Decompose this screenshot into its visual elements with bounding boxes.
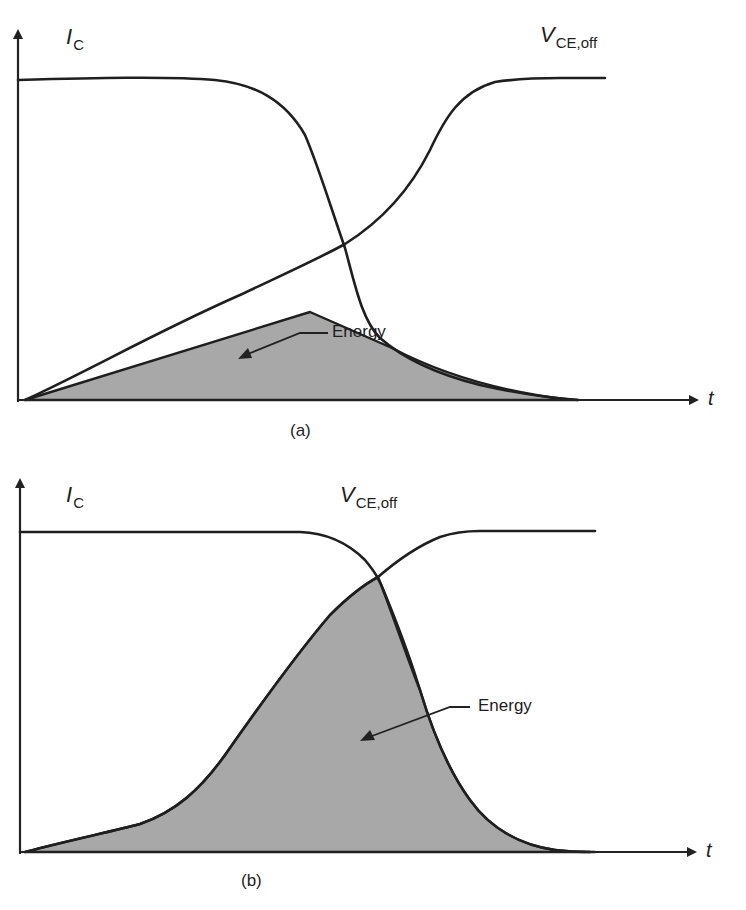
panel-a bbox=[17, 34, 694, 402]
panel-label-a: (a) bbox=[290, 422, 311, 439]
panel-label-b: (b) bbox=[241, 872, 262, 889]
ic-symbol-a: I bbox=[66, 24, 72, 49]
ic-label-a: IC bbox=[66, 26, 84, 48]
t-axis-label-a: t bbox=[708, 388, 714, 408]
vce-subscript-b: CE,off bbox=[356, 494, 397, 511]
ic-subscript-a: C bbox=[73, 36, 84, 53]
vce-symbol-b: V bbox=[340, 482, 355, 507]
energy-label-b: Energy bbox=[478, 697, 532, 714]
vce-subscript-a: CE,off bbox=[556, 34, 597, 51]
vce-symbol-a: V bbox=[540, 22, 555, 47]
ic-symbol-b: I bbox=[66, 482, 72, 507]
ic-subscript-b: C bbox=[73, 494, 84, 511]
ic-label-b: IC bbox=[66, 484, 84, 506]
turn-off-waveform-figure bbox=[0, 0, 746, 910]
panel-b bbox=[19, 483, 692, 854]
vce-label-b: VCE,off bbox=[340, 484, 397, 506]
vce-label-a: VCE,off bbox=[540, 24, 597, 46]
energy-label-a: Energy bbox=[332, 323, 386, 340]
t-axis-label-b: t bbox=[706, 840, 712, 860]
energy-area-a bbox=[25, 312, 578, 400]
